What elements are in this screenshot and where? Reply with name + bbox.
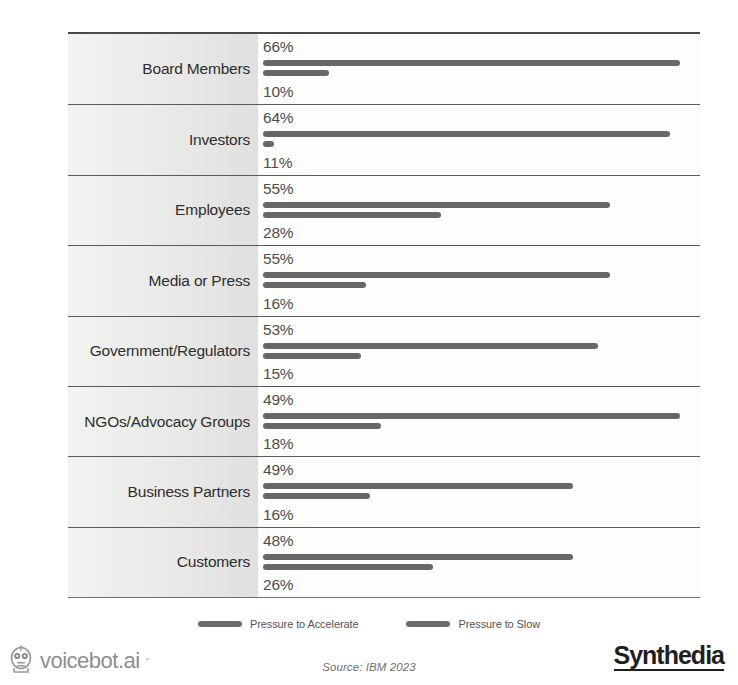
category-label: Business Partners	[68, 457, 250, 526]
row-plot-area: 49%16%	[263, 457, 700, 526]
chart-row: Business Partners49%16%	[68, 456, 700, 526]
category-label: Board Members	[68, 34, 250, 104]
chart-row: Investors64%11%	[68, 104, 700, 174]
bar-accelerate	[263, 413, 680, 419]
value-label-accelerate: 49%	[263, 391, 293, 409]
value-label-slow: 11%	[263, 154, 292, 172]
chart-row: NGOs/Advocacy Groups49%18%	[68, 386, 700, 456]
value-label-slow: 28%	[263, 224, 293, 242]
bar-accelerate	[263, 202, 610, 208]
chart-row: Board Members66%10%	[68, 34, 700, 104]
row-plot-area: 64%11%	[263, 105, 700, 174]
bar-accelerate	[263, 60, 680, 66]
chart-rows: Board Members66%10%Investors64%11%Employ…	[68, 34, 700, 597]
row-plot-area: 55%16%	[263, 246, 700, 315]
synthedia-logo[interactable]: Synthedia	[614, 642, 724, 671]
category-label: Government/Regulators	[68, 317, 250, 386]
value-label-slow: 26%	[263, 576, 293, 594]
row-plot-area: 66%10%	[263, 34, 700, 104]
bar-slow	[263, 493, 370, 499]
legend-label-accelerate: Pressure to Accelerate	[250, 618, 358, 630]
value-label-accelerate: 53%	[263, 321, 293, 339]
value-label-accelerate: 49%	[263, 461, 293, 479]
chart-bottom-border	[68, 597, 700, 598]
legend-swatch-slow-icon	[406, 621, 450, 627]
value-label-slow: 18%	[263, 435, 293, 453]
bar-slow	[263, 564, 433, 570]
chart-legend: Pressure to Accelerate Pressure to Slow	[0, 612, 738, 636]
category-label: NGOs/Advocacy Groups	[68, 387, 250, 456]
bar-slow	[263, 423, 381, 429]
category-label: Investors	[68, 105, 250, 174]
value-label-accelerate: 64%	[263, 109, 293, 127]
legend-item-accelerate[interactable]: Pressure to Accelerate	[198, 618, 358, 630]
bar-slow	[263, 212, 441, 218]
chart-row: Employees55%28%	[68, 175, 700, 245]
legend-item-slow[interactable]: Pressure to Slow	[406, 618, 540, 630]
bar-slow	[263, 353, 361, 359]
row-plot-area: 55%28%	[263, 176, 700, 245]
bar-accelerate	[263, 343, 598, 349]
legend-swatch-accelerate-icon	[198, 621, 242, 627]
bar-slow	[263, 141, 274, 147]
category-label: Employees	[68, 176, 250, 245]
figure-footer: voicebot.ai ″ Source: IBM 2023 Synthedia	[0, 640, 738, 685]
chart-row: Customers48%26%	[68, 527, 700, 597]
value-label-accelerate: 55%	[263, 250, 293, 268]
row-plot-area: 53%15%	[263, 317, 700, 386]
bar-slow	[263, 70, 329, 76]
row-plot-area: 48%26%	[263, 528, 700, 597]
chart-row: Government/Regulators53%15%	[68, 316, 700, 386]
legend-label-slow: Pressure to Slow	[458, 618, 540, 630]
bar-slow	[263, 282, 366, 288]
bar-accelerate	[263, 483, 573, 489]
bar-accelerate	[263, 554, 573, 560]
category-label: Customers	[68, 528, 250, 597]
category-label: Media or Press	[68, 246, 250, 315]
value-label-slow: 16%	[263, 295, 293, 313]
bar-chart-figure: Board Members66%10%Investors64%11%Employ…	[0, 0, 738, 610]
bar-accelerate	[263, 131, 670, 137]
row-plot-area: 49%18%	[263, 387, 700, 456]
value-label-accelerate: 55%	[263, 180, 293, 198]
value-label-slow: 10%	[263, 83, 293, 101]
value-label-slow: 15%	[263, 365, 293, 383]
value-label-accelerate: 48%	[263, 532, 293, 550]
value-label-accelerate: 66%	[263, 38, 293, 56]
value-label-slow: 16%	[263, 506, 293, 524]
bar-accelerate	[263, 272, 610, 278]
chart-row: Media or Press55%16%	[68, 245, 700, 315]
